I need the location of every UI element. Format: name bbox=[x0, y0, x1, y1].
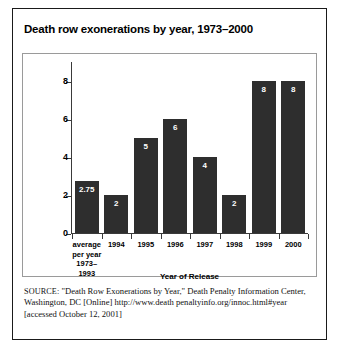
x-tick-mark bbox=[220, 234, 221, 239]
bar-series: 2.752564288 bbox=[72, 62, 308, 233]
bar-value-label: 2.75 bbox=[75, 185, 99, 194]
bar: 2.75 bbox=[75, 181, 99, 233]
y-tick-label: 0 bbox=[63, 228, 68, 239]
bar-value-label: 8 bbox=[252, 85, 276, 94]
bar: 6 bbox=[163, 119, 187, 233]
x-tick-mark bbox=[190, 234, 191, 239]
bar: 2 bbox=[104, 195, 128, 233]
bar: 8 bbox=[252, 81, 276, 233]
bar: 5 bbox=[134, 138, 158, 233]
source-label: SOURCE: bbox=[24, 287, 59, 296]
x-tick-label-line: 2000 bbox=[275, 240, 313, 250]
x-tick-mark bbox=[308, 234, 309, 239]
bar: 4 bbox=[193, 157, 217, 233]
axes-area: 02468 2.752564288 bbox=[71, 62, 308, 234]
plot-frame: Number of Inmates Released 02468 2.75256… bbox=[22, 53, 317, 277]
figure-container: Death row exonerations by year, 1973–200… bbox=[12, 8, 327, 340]
y-tick-label: 2 bbox=[63, 190, 68, 201]
bar: 2 bbox=[222, 195, 246, 233]
bar-value-label: 2 bbox=[222, 199, 246, 208]
x-tick-label: 2000 bbox=[275, 240, 313, 250]
x-tick-mark bbox=[279, 234, 280, 239]
x-axis-title: Year of Release bbox=[71, 272, 308, 281]
x-tick-mark bbox=[161, 234, 162, 239]
bar-value-label: 2 bbox=[104, 199, 128, 208]
x-tick-mark bbox=[131, 234, 132, 239]
bar: 8 bbox=[281, 81, 305, 233]
x-tick-mark bbox=[102, 234, 103, 239]
bar-value-label: 4 bbox=[193, 161, 217, 170]
source-text: "Death Row Exonerations by Year," Death … bbox=[24, 286, 306, 319]
x-tick-mark bbox=[72, 234, 73, 239]
source-note: SOURCE: "Death Row Exonerations by Year,… bbox=[24, 286, 316, 320]
bar-value-label: 8 bbox=[281, 85, 305, 94]
x-tick-mark bbox=[249, 234, 250, 239]
chart-title: Death row exonerations by year, 1973–200… bbox=[24, 23, 314, 35]
bar-value-label: 6 bbox=[163, 123, 187, 132]
y-tick-label: 4 bbox=[63, 152, 68, 163]
x-tick-label-line: per year bbox=[68, 250, 106, 260]
y-tick-label: 6 bbox=[63, 114, 68, 125]
y-tick-label: 8 bbox=[63, 76, 68, 87]
bar-value-label: 5 bbox=[134, 142, 158, 151]
